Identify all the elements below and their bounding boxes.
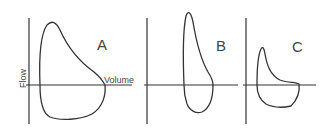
panel-a-loop	[40, 22, 106, 119]
panel-b: B	[144, 13, 238, 124]
panel-b-loop	[183, 13, 213, 113]
volume-axis-label: Volume	[104, 75, 134, 85]
panel-c: C	[243, 18, 316, 124]
panel-a: A Volume Flow	[18, 18, 134, 124]
panel-c-loop	[257, 48, 299, 107]
panel-c-label: C	[292, 38, 303, 55]
panel-b-label: B	[216, 37, 226, 54]
flow-volume-diagram: A Volume Flow B C	[0, 0, 330, 136]
flow-axis-label: Flow	[18, 68, 28, 88]
panel-a-label: A	[97, 36, 107, 53]
